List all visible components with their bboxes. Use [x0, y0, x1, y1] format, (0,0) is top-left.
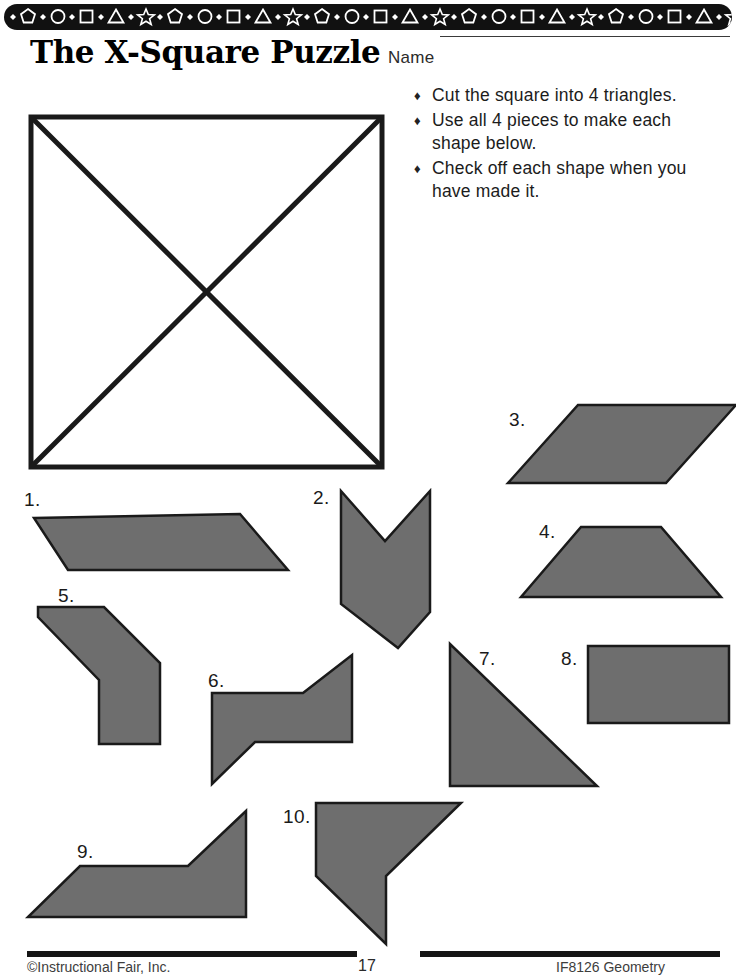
- footer-rule-right: [420, 951, 720, 957]
- puzzle-shape-notched-trapezoid[interactable]: [28, 811, 246, 917]
- instruction-text: Use all 4 pieces to make each shape belo…: [432, 109, 724, 155]
- instruction-item: ♦ Check off each shape when you have mad…: [412, 157, 724, 203]
- instruction-text: Check off each shape when you have made …: [432, 157, 724, 203]
- footer-page-number: 17: [358, 957, 376, 975]
- puzzle-shape-downward-chevron-arrow[interactable]: [341, 491, 430, 648]
- puzzle-shape-parallelogram-leaning-right-upper[interactable]: [508, 405, 736, 483]
- footer-copyright: ©Instructional Fair, Inc.: [27, 959, 170, 975]
- instruction-text: Cut the square into 4 triangles.: [432, 84, 724, 107]
- master-square-group: [31, 117, 382, 467]
- shape-number-label: 5.: [58, 585, 75, 607]
- shape-number-label: 4.: [539, 521, 556, 543]
- shape-number-label: 7.: [479, 648, 496, 670]
- decorative-header-banner: [4, 4, 732, 30]
- shape-number-label: 2.: [313, 487, 330, 509]
- puzzle-shape-parallelogram-leaning-right[interactable]: [34, 514, 288, 570]
- shape-number-label: 8.: [561, 648, 578, 670]
- shape-polygons-group: [28, 405, 736, 944]
- instruction-item: ♦ Use all 4 pieces to make each shape be…: [412, 109, 724, 155]
- instruction-item: ♦ Cut the square into 4 triangles.: [412, 84, 724, 107]
- puzzle-shape-zigzag-polygon[interactable]: [212, 655, 352, 784]
- diamond-bullet-icon: ♦: [412, 84, 432, 107]
- footer-rule-left: [27, 951, 357, 957]
- puzzle-shape-boot-polygon[interactable]: [38, 607, 160, 744]
- shape-number-label: 9.: [77, 841, 94, 863]
- master-square-diagonal-tr-bl: [31, 117, 382, 467]
- banner-shape-pattern: [4, 4, 732, 30]
- shape-number-label: 3.: [509, 409, 526, 431]
- instructions-list: ♦ Cut the square into 4 triangles. ♦ Use…: [412, 84, 724, 205]
- diamond-bullet-icon: ♦: [412, 109, 432, 132]
- diamond-bullet-icon: ♦: [412, 157, 432, 180]
- shape-number-label: 10.: [283, 806, 311, 828]
- name-label: Name: [388, 48, 435, 68]
- footer-product-code: IF8126 Geometry: [556, 959, 665, 975]
- puzzle-shape-flag-polygon[interactable]: [316, 803, 461, 944]
- name-input-line[interactable]: [440, 36, 730, 37]
- shape-number-label: 6.: [208, 670, 225, 692]
- page-title: The X-Square Puzzle: [30, 34, 380, 70]
- master-square-outline: [31, 117, 382, 467]
- shape-number-label: 1.: [24, 489, 41, 511]
- puzzle-shape-rectangle[interactable]: [588, 646, 729, 723]
- title-row: The X-Square Puzzle Name: [0, 34, 736, 76]
- master-square-diagonal-tl-br: [31, 117, 382, 467]
